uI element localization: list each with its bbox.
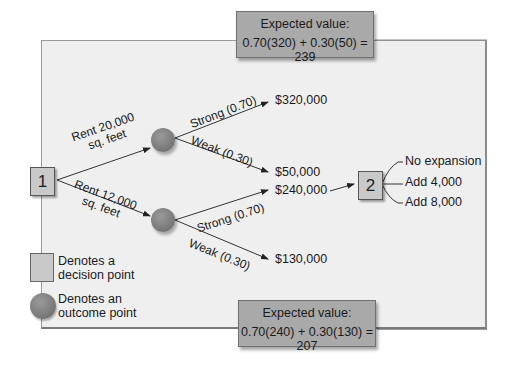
payoff-lower-weak: $130,000	[275, 252, 327, 266]
legend-outcome-text: Denotes an outcome point	[58, 292, 137, 320]
decision-node-1: 1	[30, 167, 55, 196]
outcome-node-upper-icon	[151, 128, 175, 152]
option-no-expansion: No expansion	[405, 154, 481, 168]
expected-value-box-top: Expected value: 0.70(320) + 0.30(50) = 2…	[236, 11, 374, 58]
legend-outcome-circle-icon	[30, 293, 56, 319]
payoff-lower-strong: $240,000	[275, 183, 327, 197]
expected-value-formula: 0.70(320) + 0.30(50) = 239	[237, 36, 373, 64]
expected-value-title: Expected value:	[237, 17, 373, 31]
expected-value-box-bottom: Expected value: 0.70(240) + 0.30(130) = …	[238, 300, 376, 347]
payoff-upper-weak: $50,000	[275, 165, 320, 179]
option-add-8000: Add 8,000	[405, 195, 462, 209]
payoff-upper-strong: $320,000	[275, 93, 327, 107]
option-add-4000: Add 4,000	[405, 175, 462, 189]
legend-decision-text: Denotes a decision point	[58, 254, 134, 282]
decision-node-2: 2	[358, 171, 383, 200]
expected-value-title: Expected value:	[239, 306, 375, 320]
outcome-node-lower-icon	[151, 208, 175, 232]
expected-value-formula: 0.70(240) + 0.30(130) = 207	[239, 325, 375, 353]
legend-decision-square-icon	[30, 253, 54, 282]
